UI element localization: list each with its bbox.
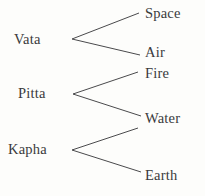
node-label-water: Water (145, 111, 180, 125)
node-label-fire: Fire (145, 66, 169, 80)
branch-line-kapha-earth (72, 150, 141, 172)
dosha-element-tree-diagram: Vata Pitta Kapha Space Air Fire Water Ea… (0, 0, 205, 196)
branch-line-vata-air (72, 39, 140, 55)
branch-line-pitta-fire (73, 72, 138, 94)
branch-line-pitta-water (73, 94, 141, 116)
node-label-kapha: Kapha (8, 142, 47, 156)
node-label-pitta: Pitta (18, 86, 46, 100)
branch-line-kapha-water (72, 128, 138, 150)
node-label-air: Air (145, 45, 165, 59)
node-label-earth: Earth (145, 168, 177, 182)
branch-line-vata-space (72, 13, 139, 39)
node-label-vata: Vata (14, 32, 41, 46)
node-label-space: Space (145, 6, 181, 20)
